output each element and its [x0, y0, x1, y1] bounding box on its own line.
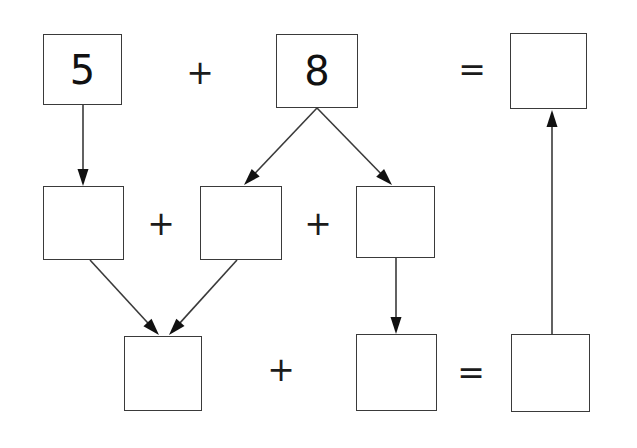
arrow-midleft-to-bottomleft	[90, 260, 159, 335]
operator-equals-top: =	[458, 55, 486, 83]
box-mid-center[interactable]	[200, 186, 282, 260]
arrow-addend2-to-midcenter	[244, 108, 317, 185]
operator-plus-middle-left: +	[147, 209, 175, 237]
box-bottom-right[interactable]	[511, 334, 590, 412]
operator-plus-top: +	[186, 58, 214, 86]
box-addend-2[interactable]: 8	[276, 34, 358, 108]
box-label-addend-2: 8	[304, 51, 329, 91]
box-bottom-center[interactable]	[356, 334, 437, 411]
box-bottom-left[interactable]	[124, 336, 202, 411]
box-top-result[interactable]	[510, 33, 587, 109]
operator-equals-bottom: =	[457, 358, 485, 386]
operator-plus-middle-right: +	[304, 209, 332, 237]
box-addend-1[interactable]: 5	[43, 34, 122, 105]
arrow-midcenter-to-bottomleft	[169, 260, 237, 335]
diagram-canvas: 58 +=+++=	[0, 0, 637, 448]
arrow-addend1-to-midleft	[78, 105, 89, 186]
arrow-addend2-to-midright	[317, 108, 392, 185]
box-label-addend-1: 5	[70, 50, 95, 90]
operator-plus-bottom: +	[267, 355, 295, 383]
box-mid-left[interactable]	[43, 186, 124, 260]
arrow-midright-to-bottomcenter	[391, 258, 402, 334]
box-mid-right[interactable]	[356, 186, 435, 258]
arrow-bottomright-to-topresult	[547, 110, 558, 334]
